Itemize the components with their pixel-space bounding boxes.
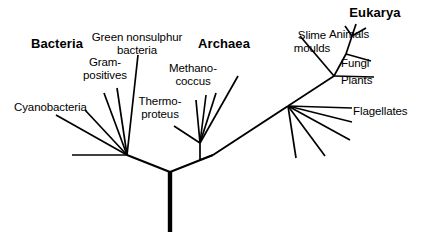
domain-label-bacteria: Bacteria (22, 38, 92, 51)
domain-label-eukarya: Eukarya (340, 7, 410, 20)
taxon-label-fungi: Fungi (341, 57, 377, 70)
taxon-label-cyanobacteria: Cyanobacteria (14, 101, 102, 114)
taxon-label-plants: Plants (341, 74, 381, 87)
branch-bacteria-gram-positives (104, 93, 127, 155)
branch-archaea-eukarya-split (200, 143, 213, 160)
branch-archaea-branch-b (196, 100, 200, 143)
branch-bacteria-cyanobacteria (56, 115, 127, 155)
branch-root-to-bacteria-node (127, 155, 170, 172)
phylogenetic-tree-figure: BacteriaArchaeaEukaryaGreen nonsulphur b… (0, 0, 421, 242)
taxon-label-flagellates: Flagellates (353, 105, 417, 118)
taxon-label-slime-moulds: Slime moulds (290, 29, 334, 54)
taxon-label-methanococcus: Methano- coccus (163, 62, 223, 87)
taxon-label-animals: Animals (329, 28, 381, 41)
taxon-label-green-nonsulphur-bacteria: Green nonsulphur bacteria (88, 31, 186, 56)
taxon-label-gram-positives: Gram- positives (79, 56, 131, 81)
taxon-label-thermoproteus: Thermo- proteus (131, 95, 189, 120)
domain-label-archaea: Archaea (192, 38, 256, 51)
branch-archaea-thermoproteus (174, 126, 200, 143)
branch-eukarya-stem (213, 106, 288, 155)
branch-eukarya-crown-stem (288, 76, 334, 106)
branch-eukarya-basal-c (288, 106, 350, 140)
